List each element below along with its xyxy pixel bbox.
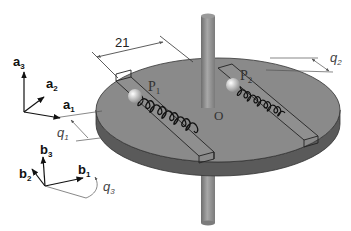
axis-a1-label: a1 [63, 97, 75, 114]
frame-a [24, 72, 60, 118]
axis-b3-label: b3 [40, 142, 53, 159]
shaft-upper [201, 14, 215, 109]
frame-b [32, 157, 83, 186]
q2-label: q2 [330, 50, 342, 67]
particle-p2 [226, 78, 240, 92]
q1-label: q1 [57, 125, 69, 142]
q3-label: q3 [103, 179, 115, 196]
particle-p1 [128, 89, 142, 103]
axis-b2-label: b2 [19, 166, 32, 183]
dimension-label: 21 [115, 35, 129, 50]
axis-a3-label: a3 [13, 54, 25, 71]
axis-b1-label: b1 [78, 162, 91, 179]
axis-a2-label: a2 [46, 76, 58, 93]
origin-label: O [214, 108, 223, 123]
disk-mechanism-diagram: 21 q2 q1 P1 P2 O a3 a2 a1 b3 b2 b1 q3 [0, 0, 351, 231]
